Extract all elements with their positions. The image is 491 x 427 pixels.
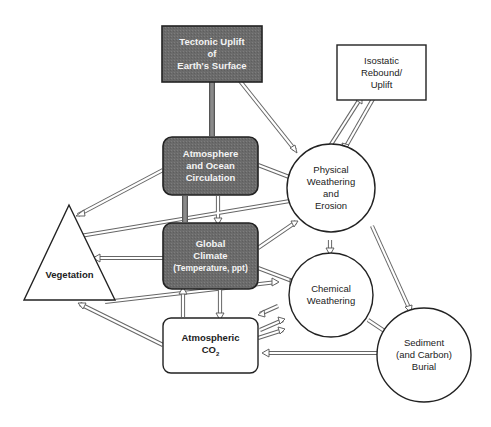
isostatic-line3: Uplift [371, 79, 393, 91]
label-isostatic-rebound: Isostatic Rebound/ Uplift [337, 45, 426, 100]
tectonic-line1: Tectonic Uplift [179, 36, 244, 48]
co2-line2: CO [202, 344, 216, 355]
climate-line2: Climate [193, 250, 227, 262]
physical-line3: and [323, 188, 339, 200]
node-vegetation [24, 205, 115, 300]
sediment-line3: Burial [412, 361, 436, 373]
co2-line1: Atmospheric [181, 332, 239, 344]
physical-line1: Physical [313, 164, 348, 176]
label-atmospheric-co2: Atmospheric CO2 [163, 318, 258, 373]
isostatic-line1: Isostatic [364, 55, 399, 67]
chemical-line1: Chemical [311, 283, 351, 295]
label-atmosphere-ocean: Atmosphere and Ocean Circulation [163, 137, 258, 195]
tectonic-line3: Earth's Surface [177, 60, 246, 72]
co2-line2-wrap: CO2 [202, 344, 220, 360]
label-sediment-burial: Sediment (and Carbon) Burial [377, 308, 471, 402]
label-global-climate: Global Climate (Temperature, ppt) [163, 223, 258, 289]
label-physical-weathering: Physical Weathering and Erosion [287, 144, 375, 232]
climate-line3: (Temperature, ppt) [173, 262, 247, 274]
co2-subscript: 2 [216, 350, 219, 356]
label-tectonic-uplift: Tectonic Uplift of Earth's Surface [162, 26, 262, 82]
atmosphere-line1: Atmosphere [183, 148, 238, 160]
sediment-line1: Sediment [404, 337, 444, 349]
atmosphere-line2: and Ocean [186, 160, 235, 172]
climate-line1: Global [196, 238, 226, 250]
physical-line4: Erosion [315, 200, 347, 212]
label-vegetation: Vegetation [24, 268, 115, 282]
vegetation-line1: Vegetation [45, 269, 93, 281]
chemical-line2: Weathering [307, 295, 355, 307]
label-chemical-weathering: Chemical Weathering [289, 253, 373, 337]
sediment-line2: (and Carbon) [396, 349, 452, 361]
physical-line2: Weathering [307, 176, 355, 188]
tectonic-line2: of [208, 48, 217, 60]
isostatic-line2: Rebound/ [361, 67, 402, 79]
atmosphere-line3: Circulation [186, 172, 236, 184]
